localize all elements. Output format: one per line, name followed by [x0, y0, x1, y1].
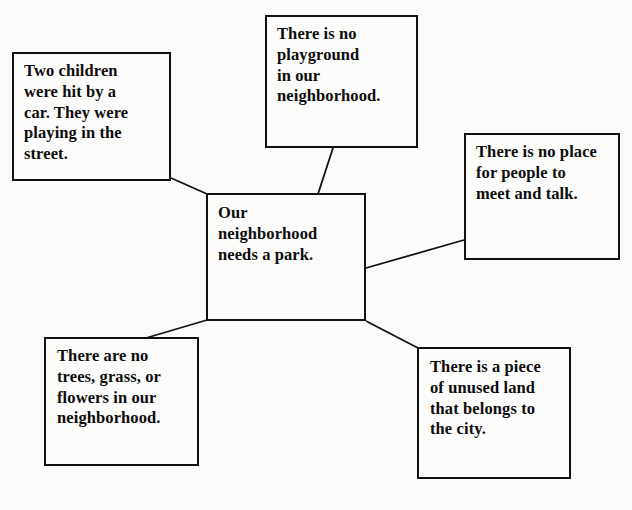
idea-box-top[interactable]: There is no playground in our neighborho…	[265, 15, 418, 148]
idea-box-bottom-left-text: There are no trees, grass, or flowers in…	[57, 346, 197, 429]
idea-web-diagram: Two children were hit by a car. They wer…	[0, 0, 632, 510]
idea-box-top-left-text: Two children were hit by a car. They wer…	[24, 61, 169, 165]
idea-box-bottom-right-text: There is a piece of unused land that bel…	[430, 357, 569, 440]
idea-box-center-text: Our neighborhood needs a park.	[218, 203, 364, 265]
idea-box-bottom-left[interactable]: There are no trees, grass, or flowers in…	[44, 337, 199, 466]
connector-center-to-bottom-right	[366, 321, 418, 348]
idea-box-right-text: There is no place for people to meet and…	[476, 142, 619, 204]
idea-box-top-left[interactable]: Two children were hit by a car. They wer…	[12, 52, 171, 181]
idea-box-top-text: There is no playground in our neighborho…	[277, 24, 416, 107]
idea-box-right[interactable]: There is no place for people to meet and…	[464, 133, 620, 260]
connector-center-to-bottom-left	[146, 320, 207, 338]
connector-center-to-top	[318, 148, 333, 194]
idea-box-center[interactable]: Our neighborhood needs a park.	[206, 193, 366, 321]
connector-center-to-top-left	[171, 178, 207, 194]
idea-box-bottom-right[interactable]: There is a piece of unused land that bel…	[417, 347, 571, 479]
connector-center-to-right	[366, 240, 464, 268]
